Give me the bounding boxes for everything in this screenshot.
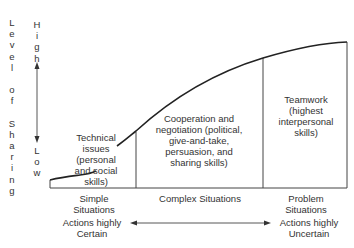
high-label: High: [31, 19, 43, 64]
y-title-letter: S: [9, 118, 15, 129]
simple-description: Technical issues (personal and social sk…: [58, 132, 134, 187]
complex-description: Cooperation and negotiation (political, …: [140, 113, 258, 168]
arrow-down-icon: [35, 136, 40, 143]
simple-situations-label: Simple Situations: [54, 193, 134, 215]
x-axis-right-label: Actions highly Uncertain: [268, 217, 350, 239]
y-title-letter: n: [9, 174, 14, 185]
y-title-letter: g: [9, 185, 14, 196]
problem-description: Teamwork (highest interpersonal skills): [266, 94, 346, 138]
y-title-letter: o: [9, 84, 14, 95]
y-title-letter: i: [11, 162, 13, 173]
y-title-letter: L: [9, 17, 14, 28]
y-title-letter: v: [10, 39, 15, 50]
y-title-letter: h: [9, 129, 14, 140]
x-axis-left-label: Actions highly Certain: [50, 217, 134, 239]
y-title-letter: e: [9, 28, 14, 39]
y-title-letter: l: [11, 62, 13, 73]
complex-situations-label: Complex Situations: [140, 193, 260, 204]
problem-situations-label: Problem Situations: [266, 193, 346, 215]
y-axis-title: L e v e l o f S h a r i n g: [6, 17, 18, 196]
y-title-letter: e: [9, 51, 14, 62]
low-label: Low: [31, 145, 43, 179]
y-title-letter: a: [9, 140, 14, 151]
y-title-letter: f: [11, 95, 14, 106]
y-title-letter: r: [10, 151, 13, 162]
